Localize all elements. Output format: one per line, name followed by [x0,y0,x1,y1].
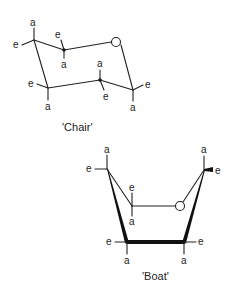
chair-caption: 'Chair' [62,121,93,133]
chair-c2-equatorial-label: e [55,29,61,40]
boat-wedge-bond [204,167,213,172]
boat-bl-equatorial-label: e [106,236,112,247]
chair-c4-equatorial-label: e [103,91,109,102]
chair-conformation: a e e a e a a e e a 'Chair' [13,17,151,133]
boat-oxygen-atom [176,202,185,211]
chair-c1-equatorial-label: e [13,39,19,50]
boat-inner-equatorial-label: e [129,182,135,193]
chair-ring-bonds [34,40,133,90]
chair-c1-axial-label: a [30,17,36,28]
boat-back-bonds [107,169,204,206]
boat-tl-axial-label: a [104,144,110,155]
chair-substituent-bonds [22,28,143,101]
boat-tr-axial-label: a [201,144,207,155]
chair-c4-axial-label: a [97,58,103,69]
boat-caption: 'Boat' [142,270,169,282]
chair-c5-axial-label: a [130,102,136,113]
chair-c5-equatorial-label: e [145,79,151,90]
boat-br-axial-label: a [181,255,187,266]
chair-c2-axial-label: a [61,59,67,70]
conformation-diagram: a e e a e a a e e a 'Chair' [0,0,234,293]
chair-oxygen-atom [112,38,121,47]
boat-bl-axial-label: a [124,255,130,266]
boat-inner-axial-label: a [129,216,135,227]
boat-br-equatorial-label: e [198,236,204,247]
chair-c3-equatorial-label: e [28,78,34,89]
chair-c3-axial-label: a [45,101,51,112]
boat-tr-equatorial-label: e [215,165,221,176]
boat-tl-equatorial-label: e [86,163,92,174]
boat-conformation: a e e a a e e a e a 'Boat' [86,144,221,282]
